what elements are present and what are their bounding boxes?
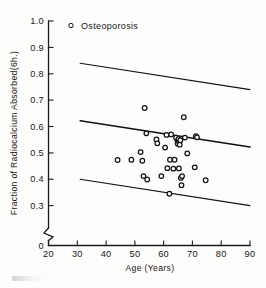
y-tick-label-0.8: 0.8: [30, 69, 44, 79]
x-tick-label-90: 90: [245, 249, 256, 259]
y-tick-label-0.4: 0.4: [30, 174, 44, 184]
data-point: [145, 177, 150, 182]
data-point: [142, 106, 147, 111]
data-point: [165, 166, 170, 171]
data-points-layer: [115, 106, 208, 196]
data-point: [171, 166, 176, 171]
data-point: [185, 151, 190, 156]
open-circle-marker-icon: [69, 23, 73, 27]
data-point: [192, 165, 197, 170]
x-tick-label-40: 40: [101, 249, 112, 259]
data-point: [177, 166, 182, 171]
x-tick-label-60: 60: [158, 249, 169, 259]
x-tick-label-30: 30: [72, 249, 83, 259]
data-point: [195, 135, 200, 140]
data-point: [140, 158, 145, 163]
data-point: [159, 174, 164, 179]
y-axis-break-mark: [44, 228, 53, 241]
plot-canvas: 1.0 0.9 0.8 0.7 0.6 0.5 0.4 0.3 0 Fracti…: [0, 0, 266, 288]
data-point: [183, 135, 188, 140]
y-tick-label-1.0: 1.0: [30, 16, 44, 26]
y-tick-label-0.6: 0.6: [30, 122, 44, 132]
y-tick-label-0.9: 0.9: [30, 43, 44, 53]
data-point: [169, 132, 174, 137]
legend-label-osteoporosis: Osteoporosis: [81, 21, 138, 31]
data-point: [167, 191, 172, 196]
x-tick-label-20: 20: [43, 249, 54, 259]
x-axis-title: Age (Years): [126, 263, 175, 273]
data-point: [181, 115, 186, 120]
x-tick-label-70: 70: [187, 249, 198, 259]
x-tick-label-50: 50: [129, 249, 140, 259]
y-tick-label-0.5: 0.5: [30, 148, 44, 158]
data-point: [144, 131, 149, 136]
data-point: [164, 133, 169, 138]
data-point: [178, 138, 183, 143]
x-tick-label-80: 80: [216, 249, 227, 259]
data-point: [179, 183, 184, 188]
data-point: [177, 142, 182, 147]
data-point: [180, 174, 185, 179]
data-point: [115, 158, 120, 163]
data-point: [163, 145, 168, 150]
scatter-plot-figure: 1.0 0.9 0.8 0.7 0.6 0.5 0.4 0.3 0 Fracti…: [0, 0, 266, 288]
lower-limit-line: [80, 179, 250, 205]
y-axis-group: 1.0 0.9 0.8 0.7 0.6 0.5 0.4 0.3 0 Fracti…: [9, 16, 54, 250]
y-axis-title: Fraction of Radiocalcium Absorbed(6h.): [9, 51, 19, 215]
data-point: [203, 178, 208, 183]
data-point: [155, 141, 160, 146]
legend: Osteoporosis: [69, 21, 139, 31]
scan-artifact: [12, 276, 48, 281]
x-axis-group: 20 30 40 50 60 70 80 90 Age (Years): [43, 241, 255, 274]
data-point: [138, 150, 143, 155]
y-tick-label-0.7: 0.7: [30, 95, 44, 105]
data-point: [168, 157, 173, 162]
data-point: [172, 157, 177, 162]
data-point: [129, 157, 134, 162]
upper-limit-line: [80, 63, 250, 89]
y-tick-label-0.3: 0.3: [30, 201, 44, 211]
